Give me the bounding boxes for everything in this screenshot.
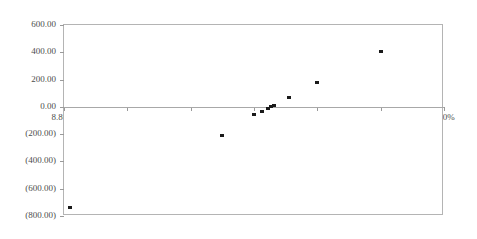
data-point bbox=[252, 113, 256, 116]
y-axis-tick-label: 600.00 bbox=[0, 19, 56, 29]
scatter-chart: 600.00400.00200.000.00(200.00)(400.00)(6… bbox=[0, 0, 477, 239]
data-point bbox=[287, 96, 291, 99]
y-axis-tick bbox=[60, 134, 64, 135]
y-axis-tick bbox=[60, 80, 64, 81]
x-axis-tick bbox=[444, 107, 445, 111]
plot-area bbox=[63, 24, 443, 215]
y-axis-tick-label: (200.00) bbox=[0, 128, 56, 138]
y-axis-tick bbox=[60, 52, 64, 53]
y-axis-tick-label: (600.00) bbox=[0, 183, 56, 193]
y-axis-tick-label: (400.00) bbox=[0, 155, 56, 165]
zero-axis-line bbox=[64, 107, 444, 108]
y-axis-tick bbox=[60, 189, 64, 190]
y-axis-tick-label: 400.00 bbox=[0, 46, 56, 56]
y-axis-tick bbox=[60, 216, 64, 217]
y-axis-tick bbox=[60, 161, 64, 162]
data-point bbox=[379, 50, 383, 53]
y-axis-tick-label: (800.00) bbox=[0, 210, 56, 220]
data-point bbox=[68, 206, 72, 209]
data-point bbox=[260, 110, 264, 113]
data-point bbox=[272, 104, 276, 107]
y-axis-tick-label: 200.00 bbox=[0, 74, 56, 84]
y-axis-tick-label: 0.00 bbox=[0, 101, 56, 111]
data-point bbox=[315, 81, 319, 84]
data-point bbox=[220, 134, 224, 137]
y-axis-tick bbox=[60, 25, 64, 26]
